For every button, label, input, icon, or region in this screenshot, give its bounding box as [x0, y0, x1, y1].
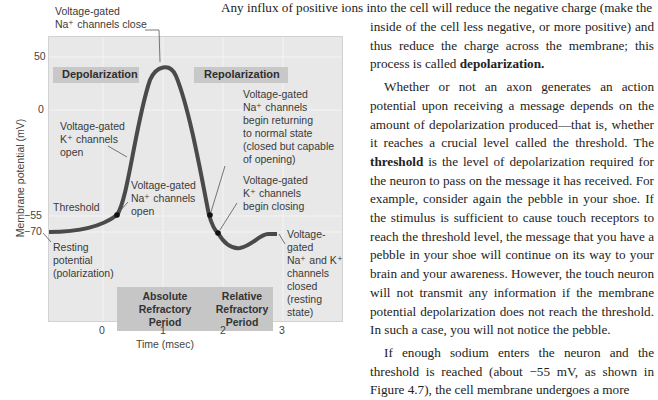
annotation-resting-potential: Resting potential (polarization): [53, 241, 114, 280]
label-line: open: [60, 146, 125, 159]
label-line: K⁺ channels: [60, 133, 125, 146]
annotation-na-return: Voltage-gated Na⁺ channels begin returni…: [243, 88, 334, 166]
paragraph-text: Whether or not an axon generates an acti…: [370, 79, 654, 150]
label-line: Na⁺ channels: [243, 101, 334, 114]
body-line-1: Any influx of positive ions into the cel…: [221, 0, 657, 18]
label-line: (resting: [287, 293, 343, 306]
x-tick-2: 2: [220, 324, 226, 336]
label-line: to normal state: [243, 127, 334, 140]
label-line: Voltage-gated: [243, 174, 308, 187]
label-line: (closed but capable: [243, 140, 334, 153]
label-line: gated: [287, 241, 343, 254]
label-line: closed: [287, 280, 343, 293]
label-line: Resting: [53, 241, 114, 254]
paragraph-2: Whether or not an axon generates an acti…: [370, 78, 654, 340]
y-tick-50: 50: [34, 50, 46, 62]
label-line: state): [287, 306, 343, 319]
annotation-k-open: Voltage-gated K⁺ channels open: [60, 120, 125, 159]
term-depolarization: depolarization.: [460, 56, 545, 71]
x-axis-label: Time (msec): [136, 338, 194, 350]
label-line: Na⁺ channels: [131, 192, 196, 205]
label-line: channels: [287, 267, 343, 280]
label-line: Voltage-gated: [60, 120, 125, 133]
body-text-column: inside of the cell less negative, or mor…: [370, 18, 654, 400]
label-line: Na⁺ channels close: [55, 18, 147, 31]
label-line: K⁺ channels: [243, 187, 308, 200]
paragraph-text: is the level of depolarization required …: [370, 154, 654, 337]
label-line: of opening): [243, 153, 334, 166]
label-line: Voltage-gated: [55, 5, 147, 18]
label-line: Voltage-gated: [243, 88, 334, 101]
x-tick-3: 3: [279, 324, 285, 336]
label-line: potential: [53, 254, 114, 267]
label-line: Voltage-: [287, 228, 343, 241]
y-axis-label: Membrane potential (mV): [14, 113, 26, 243]
label-line: begin closing: [243, 200, 308, 213]
label-line: (polarization): [53, 267, 114, 280]
annotation-na-open: Voltage-gated Na⁺ channels open: [131, 179, 196, 218]
x-tick-1: 1: [160, 324, 166, 336]
label-line: begin returning: [243, 114, 334, 127]
label-line: Na⁺ and K⁺: [287, 254, 343, 267]
paragraph-3: If enough sodium enters the neuron and t…: [370, 344, 654, 400]
paragraph-1: inside of the cell less negative, or mor…: [370, 18, 654, 74]
y-tick-minus-70: −70: [24, 225, 42, 237]
annotation-threshold: Threshold: [53, 201, 100, 214]
annotation-resting-state: Voltage- gated Na⁺ and K⁺ channels close…: [287, 228, 343, 319]
label-line: Voltage-gated: [131, 179, 196, 192]
term-threshold: threshold: [370, 154, 423, 169]
annotation-k-closing: Voltage-gated K⁺ channels begin closing: [243, 174, 308, 213]
x-tick-0: 0: [99, 324, 105, 336]
y-tick-0: 0: [38, 103, 44, 115]
y-tick-minus-55: −55: [24, 209, 42, 221]
label-line: open: [131, 205, 196, 218]
annotation-na-close: Voltage-gated Na⁺ channels close: [55, 5, 147, 31]
